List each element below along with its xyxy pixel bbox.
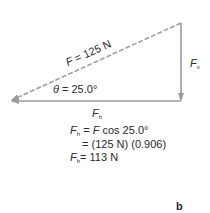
horizontal-component-label: Fh: [92, 108, 102, 120]
panel-label: b: [176, 200, 183, 212]
equation-line-1: Fh = F cos 25.0°: [70, 125, 148, 137]
vertical-component-label: Fv: [190, 58, 200, 70]
vector-triangle: [0, 0, 210, 213]
equation-line-3: Fh= 113 N: [70, 152, 118, 164]
equation-line-2: = (125 N) (0.906): [82, 139, 166, 150]
angle-label: θ = 25.0°: [53, 84, 97, 95]
